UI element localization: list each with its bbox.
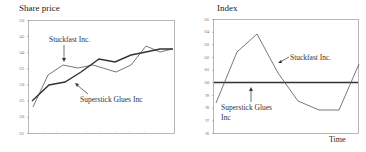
annotation-superstick: Superstick Glues Inc	[80, 95, 143, 104]
svg-text:Inc: Inc	[221, 113, 231, 122]
share-price-chart: Share price 150 145 140 135 130 125 120 …	[0, 0, 183, 152]
y-ticks: 150 145 140 135 130 125 120 115	[19, 19, 29, 136]
annotation-stuckfast: Stuckfast Inc.	[290, 53, 331, 62]
svg-text:104: 104	[204, 30, 210, 34]
svg-text:130: 130	[19, 83, 25, 87]
svg-text:100: 100	[204, 81, 210, 85]
svg-text:102: 102	[204, 56, 210, 60]
svg-text:145: 145	[19, 35, 25, 39]
annotation-superstick: Superstick Glues	[221, 103, 272, 112]
share-price-plot: 150 145 140 135 130 125 120 115 Stuckfas…	[0, 0, 183, 152]
index-chart: Index 105 104 103 102 101 100 99 98 97 9…	[183, 0, 366, 152]
annotation-stuckfast: Stuckfast Inc.	[49, 35, 90, 44]
series-stuckfast	[216, 34, 359, 110]
svg-text:98: 98	[206, 106, 210, 110]
svg-text:103: 103	[204, 43, 210, 47]
y-ticks: 105 104 103 102 101 100 99 98 97 96	[204, 18, 214, 136]
x-axis-label: Time	[329, 135, 346, 144]
svg-text:120: 120	[19, 115, 25, 119]
svg-text:115: 115	[19, 132, 24, 136]
svg-text:96: 96	[206, 132, 210, 136]
svg-text:135: 135	[19, 67, 25, 71]
svg-text:101: 101	[204, 68, 210, 72]
svg-text:99: 99	[206, 94, 210, 98]
svg-text:125: 125	[19, 99, 25, 103]
svg-text:97: 97	[206, 119, 210, 123]
svg-text:150: 150	[19, 19, 25, 23]
series-superstick	[32, 49, 173, 101]
index-plot: 105 104 103 102 101 100 99 98 97 96 Stuc…	[183, 0, 366, 152]
svg-text:140: 140	[19, 51, 25, 55]
svg-text:105: 105	[204, 18, 210, 22]
